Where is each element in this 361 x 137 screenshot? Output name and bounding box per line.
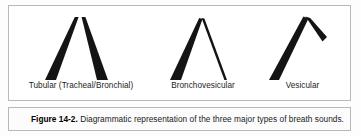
bronchovesicular-waveform-icon <box>151 10 255 82</box>
diagram-label-tubular: Tubular (Tracheal/Bronchial) <box>11 80 151 91</box>
figure-caption-bar: Figure 14-2. Diagrammatic representation… <box>8 107 351 131</box>
figure-caption-number: Figure 14-2. <box>31 114 78 124</box>
figure-caption-text: Figure 14-2. Diagrammatic representation… <box>9 114 352 125</box>
figure-caption-body: Diagrammatic representation of the three… <box>78 114 344 124</box>
figure-panel: Tubular (Tracheal/Bronchial) Bronchovesi… <box>8 5 351 101</box>
diagram-label-vesicular: Vesicular <box>255 80 350 91</box>
diagram-bronchovesicular: Bronchovesicular <box>151 6 255 102</box>
diagram-label-bronchovesicular: Bronchovesicular <box>151 80 255 91</box>
figure-root: Tubular (Tracheal/Bronchial) Bronchovesi… <box>0 0 361 137</box>
vesicular-waveform-icon <box>255 10 350 82</box>
tubular-waveform-icon <box>11 10 151 82</box>
diagram-tubular: Tubular (Tracheal/Bronchial) <box>11 6 151 102</box>
diagram-vesicular: Vesicular <box>255 6 350 102</box>
